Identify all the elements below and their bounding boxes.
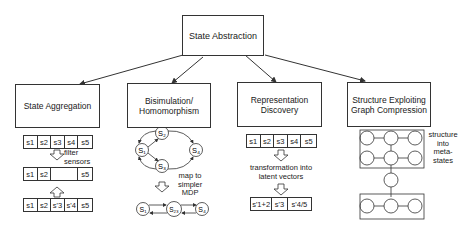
state-cell: s2 [38,136,52,148]
aggregation-state-row-1: s1 s2 s3 s4 s5 [23,135,93,149]
node-s2: S₂ [158,129,166,138]
svg-text:S₄: S₄ [198,206,206,213]
aggregation-state-row-3: s1 s2 s'3 s'4 s5 [23,198,93,212]
state-cell: s'3 [51,199,65,211]
root-node-state-abstraction: State Abstraction [182,15,264,56]
svg-text:S₁: S₁ [139,206,147,213]
filter-sensors-label: filter sensors [64,149,90,166]
state-cell: s4 [65,136,79,148]
state-cell: s2 [38,199,52,211]
root-label: State Abstraction [189,31,257,41]
representation-state-row-1: s1 s2 s3 s4 s5 [246,134,317,148]
category-representation-discovery: Representation Discovery [237,82,322,127]
category-bisimulation: Bisimulation/ Homomorphism [127,83,211,128]
state-cell: s1 [24,199,38,211]
map-to-simpler-mdp-label: map to simpler MDP [178,172,202,198]
category-label: Representation Discovery [251,95,309,115]
state-cell: s4 [288,135,302,147]
category-label: State Aggregation [24,101,92,111]
node-s1: S₁ [138,146,146,155]
state-cell-empty [51,168,78,180]
svg-text:S₂₃: S₂₃ [169,206,179,213]
aggregation-state-row-2: s1 s2 s5 [23,167,93,181]
state-cell: s3 [274,135,288,147]
category-state-aggregation: State Aggregation [15,84,100,128]
state-cell: s'4 [65,199,79,211]
latent-cell: s'4/5 [288,198,311,210]
latent-cell: s'1+2 [251,198,272,210]
state-cell: s5 [78,136,92,148]
category-graph-compression: Structure Exploiting Graph Compression [347,82,431,127]
category-label: Structure Exploiting Graph Compression [351,95,427,115]
representation-latent-row: s'1+2 s'3 s'4/5 [250,197,312,211]
latent-cell: s'3 [272,198,288,210]
state-cell: s2 [261,135,275,147]
state-cell: s1 [247,135,261,147]
node-s4: S₄ [192,146,200,155]
state-cell: s1 [24,136,38,148]
state-cell: s2 [38,168,52,180]
state-cell: s5 [78,168,92,180]
transformation-label: transformation into latent vectors [240,164,322,181]
state-cell: s1 [24,168,38,180]
category-label: Bisimulation/ Homomorphism [139,96,199,116]
state-cell: s5 [78,199,92,211]
state-cell: s5 [301,135,316,147]
node-s3: S₃ [158,162,166,171]
structure-into-meta-states-label: structure into meta- states [422,131,464,165]
state-cell: s3 [51,136,65,148]
